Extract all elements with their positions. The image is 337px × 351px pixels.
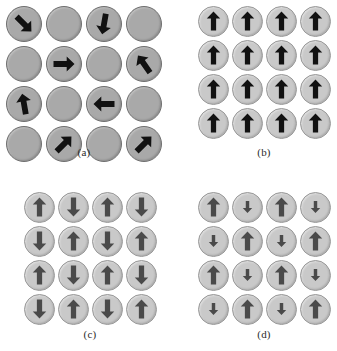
panel-b-caption: (b) (196, 146, 332, 158)
spin-arrow-site (6, 6, 42, 42)
arrow-icon (267, 39, 296, 71)
arrow-icon (85, 5, 122, 42)
spin-cell (298, 106, 332, 140)
arrow-icon (301, 259, 330, 291)
arrow-icon (301, 191, 330, 223)
spin-arrow-site (24, 226, 55, 257)
spin-cell (196, 258, 230, 292)
arrow-icon (25, 259, 54, 291)
spin-arrow-site (266, 74, 297, 105)
arrow-icon (59, 293, 88, 325)
spin-arrow-site (126, 46, 162, 82)
spin-arrow-site (300, 74, 331, 105)
panel-c-caption: (c) (22, 328, 158, 340)
arrow-icon (199, 293, 228, 325)
spin-cell (196, 4, 230, 38)
arrow-icon (127, 293, 156, 325)
spin-arrow-site (24, 260, 55, 291)
arrow-icon (301, 5, 330, 37)
spin-cell (298, 190, 332, 224)
arrow-icon (93, 293, 122, 325)
spin-cell (84, 124, 124, 164)
spin-cell (56, 224, 90, 258)
arrow-icon (233, 107, 262, 139)
spin-cell (298, 4, 332, 38)
spin-cell (84, 84, 124, 124)
spin-arrow-site (92, 260, 123, 291)
arrow-icon (233, 259, 262, 291)
spin-cell (124, 224, 158, 258)
spin-arrow-site (300, 40, 331, 71)
spin-arrow-site (300, 260, 331, 291)
spin-cell (230, 190, 264, 224)
spin-cell (56, 190, 90, 224)
spin-arrow-site (232, 192, 263, 223)
arrow-icon (199, 39, 228, 71)
spin-empty-site (126, 6, 162, 42)
spin-cell (4, 84, 44, 124)
spin-cell (124, 44, 164, 84)
arrow-icon (48, 48, 80, 80)
spin-cell (22, 258, 56, 292)
panel-c-antiferromagnetic: (c) (22, 190, 158, 326)
spin-cell (196, 292, 230, 326)
spin-arrow-site (126, 192, 157, 223)
spin-cell (44, 44, 84, 84)
spin-cell (90, 224, 124, 258)
spin-empty-site (46, 86, 82, 122)
spin-arrow-site (266, 294, 297, 325)
spin-arrow-site (232, 226, 263, 257)
spin-empty-site (46, 6, 82, 42)
spin-cell (196, 38, 230, 72)
spin-cell (44, 84, 84, 124)
spin-cell (298, 224, 332, 258)
spin-arrow-site (198, 74, 229, 105)
spin-cell (196, 190, 230, 224)
panel-a-caption: (a) (4, 146, 164, 158)
arrow-icon (59, 191, 88, 223)
spin-cell (44, 124, 84, 164)
arrow-icon (301, 107, 330, 139)
spin-cell (298, 38, 332, 72)
spin-cell (230, 4, 264, 38)
spin-cell (264, 258, 298, 292)
spin-cell (264, 38, 298, 72)
arrow-icon (199, 225, 228, 257)
spin-arrow-site (126, 260, 157, 291)
spin-arrow-site (300, 294, 331, 325)
spin-arrow-site (58, 260, 89, 291)
magnetic-ordering-figure: (a) (b) (c) (d) (0, 0, 337, 351)
spin-arrow-site (300, 108, 331, 139)
spin-cell (196, 106, 230, 140)
spin-cell (196, 224, 230, 258)
arrow-icon (233, 39, 262, 71)
spin-cell (230, 292, 264, 326)
spin-cell (230, 38, 264, 72)
arrow-icon (301, 225, 330, 257)
arrow-icon (199, 191, 228, 223)
spin-cell (264, 4, 298, 38)
arrow-icon (127, 191, 156, 223)
spin-cell (124, 258, 158, 292)
spin-arrow-site (58, 226, 89, 257)
spin-arrow-site (198, 108, 229, 139)
arrow-icon (233, 293, 262, 325)
arrow-icon (127, 259, 156, 291)
spin-arrow-site (232, 74, 263, 105)
panel-a-paramagnetic: (a) (4, 4, 164, 164)
spin-grid-b (196, 4, 332, 140)
spin-cell (298, 292, 332, 326)
spin-arrow-site (266, 40, 297, 71)
arrow-icon (41, 121, 86, 166)
arrow-icon (267, 259, 296, 291)
arrow-icon (5, 85, 42, 122)
spin-cell (44, 4, 84, 44)
spin-arrow-site (86, 6, 122, 42)
arrow-icon (59, 225, 88, 257)
spin-cell (4, 44, 44, 84)
spin-grid-d (196, 190, 332, 326)
spin-arrow-site (86, 86, 122, 122)
arrow-icon (88, 88, 120, 120)
spin-cell (230, 72, 264, 106)
spin-cell (230, 106, 264, 140)
